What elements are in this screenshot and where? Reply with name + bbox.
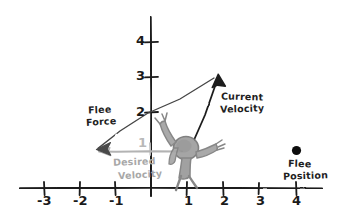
label-current-velocity-line2-text: Velocity bbox=[220, 103, 265, 114]
label-current-velocity-line1-text: Current bbox=[221, 91, 264, 102]
x-axis bbox=[20, 188, 322, 189]
label-flee-force-line2: Force bbox=[86, 117, 116, 127]
x-tick-label--3: -3 bbox=[37, 194, 51, 207]
y-tick-label-1: 1 bbox=[138, 136, 147, 149]
label-flee-position-line2: Position bbox=[283, 171, 328, 181]
label-flee-position-line2-text: Position bbox=[283, 170, 328, 181]
label-desired-velocity-line1-text: Desired bbox=[113, 156, 156, 167]
label-flee-position-line1: Flee bbox=[288, 159, 311, 169]
y-tick-label-3: 3 bbox=[136, 69, 145, 82]
y-tick-label-4: 4 bbox=[136, 34, 145, 47]
x-tick-label-4: 4 bbox=[292, 194, 301, 207]
y-tick-label-2: 2 bbox=[136, 105, 145, 118]
label-current-velocity-line2: Velocity bbox=[220, 104, 264, 114]
label-flee-force-line2-text: Force bbox=[86, 116, 117, 127]
x-tick-label-1: 1 bbox=[184, 194, 193, 207]
x-tick-label-2: 2 bbox=[220, 194, 229, 207]
x-tick-label--2: -2 bbox=[73, 194, 87, 207]
label-desired-velocity-line1: Desired bbox=[113, 157, 156, 167]
label-flee-force-line1: Flee bbox=[88, 105, 111, 115]
label-desired-velocity-line2: Velocity bbox=[118, 170, 162, 180]
label-flee-force-line1-text: Flee bbox=[88, 105, 112, 116]
point-flee-position bbox=[292, 146, 301, 155]
diagram-root: -3 -2 -1 1 2 3 4 1 2 3 4 Flee Force Curr… bbox=[0, 0, 341, 224]
label-current-velocity-line1: Current bbox=[221, 92, 263, 102]
label-flee-position-line1-text: Flee bbox=[288, 159, 312, 169]
label-desired-velocity-line2-text: Velocity bbox=[118, 169, 163, 181]
x-tick-label--1: -1 bbox=[109, 194, 123, 207]
x-tick-label-3: 3 bbox=[256, 194, 265, 207]
diagram-canvas bbox=[0, 0, 341, 224]
